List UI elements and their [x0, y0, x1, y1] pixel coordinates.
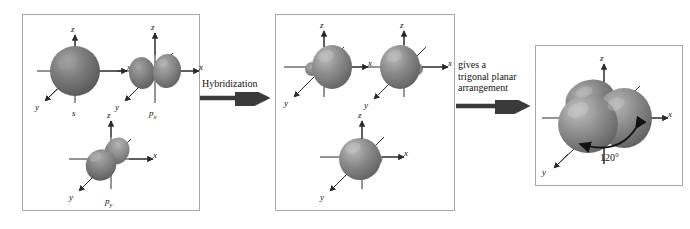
axis-label-x: x — [668, 110, 672, 119]
axis-label-z: z — [151, 23, 155, 32]
orbital-sp2-c-graphic — [318, 113, 414, 203]
bond-angle-label: 120° — [600, 152, 619, 163]
hybridization-arrow-label: Hybridization — [202, 78, 258, 90]
axis-label-z: z — [107, 111, 111, 120]
orbital-sp2-combined: x z y 120° — [518, 52, 690, 182]
result-arrow-label: gives a trigonal planar arrangement — [458, 59, 517, 94]
atomic-orbital-panel: x z y s — [22, 14, 200, 211]
axis-label-z: z — [358, 111, 362, 120]
axis-label-y: y — [69, 193, 73, 202]
axis-label-y: y — [364, 101, 368, 110]
hybrid-orbital-panel: x z y x z y — [275, 14, 455, 211]
orbital-sp2-a: x z y — [282, 23, 376, 111]
axis-label-x: x — [199, 63, 203, 72]
trigonal-planar-panel: x z y 120° — [535, 45, 683, 186]
orbital-sp2-c: x z y — [318, 113, 414, 203]
axis-label-z: z — [71, 25, 75, 34]
axis-label-z: z — [320, 21, 324, 30]
orbital-label-py: py — [105, 197, 112, 208]
orbital-sp2-b: x z y — [364, 23, 456, 111]
axis-label-y: y — [115, 103, 119, 112]
orbital-sp2-b-graphic — [364, 23, 456, 111]
axis-label-z: z — [400, 21, 404, 30]
hybridization-arrow-icon — [200, 92, 276, 106]
axis-label-z: z — [600, 54, 604, 63]
axis-label-y: y — [284, 99, 288, 108]
axis-label-x: x — [404, 149, 408, 158]
hybridization-arrow-group: Hybridization — [200, 92, 276, 110]
orbital-py: x z y py — [65, 113, 165, 205]
axis-label-y: y — [35, 103, 39, 112]
orbital-py-graphic — [65, 113, 165, 205]
orbital-px-graphic — [115, 25, 207, 117]
axis-label-x: x — [153, 151, 157, 160]
orbital-px: x z y px — [115, 25, 207, 117]
axis-label-x: x — [448, 59, 452, 68]
axis-label-y: y — [542, 168, 546, 177]
orbital-sp2-a-graphic — [282, 23, 376, 111]
axis-label-y: y — [320, 193, 324, 202]
